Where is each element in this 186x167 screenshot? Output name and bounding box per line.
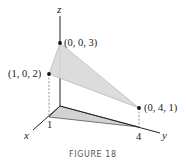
label-0-4-1: (0, 4, 1)	[144, 102, 178, 114]
label-0-0-3: (0, 0, 3)	[64, 37, 98, 49]
x-axis-label: x	[23, 129, 29, 141]
point-0-0-3	[58, 41, 62, 45]
point-1-0-2	[47, 72, 51, 76]
figure-diagram: (0, 0, 3) (1, 0, 2) (0, 4, 1) z x y 1 4 …	[0, 0, 186, 167]
x-tick-1: 1	[47, 119, 52, 130]
point-0-4-1	[137, 106, 141, 110]
label-1-0-2: (1, 0, 2)	[8, 68, 42, 80]
figure-caption: FIGURE 18	[69, 150, 117, 159]
triangle-surface	[49, 43, 139, 108]
y-tick-4: 4	[136, 131, 142, 142]
y-axis-label: y	[161, 129, 167, 141]
z-axis-label: z	[56, 3, 62, 15]
